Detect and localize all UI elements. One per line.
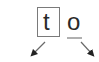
arrow-down-right-icon (81, 42, 92, 54)
arrow-down-left-icon (33, 42, 45, 54)
arrows (0, 0, 99, 62)
diagram-canvas: t o (0, 0, 99, 62)
